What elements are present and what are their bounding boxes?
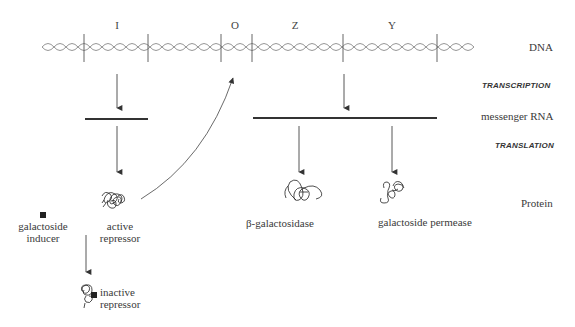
inactive-repressor-label: inactive repressor xyxy=(100,286,140,310)
protein-label: Protein xyxy=(521,197,553,209)
gene-label-o: O xyxy=(231,19,239,31)
beta-galactosidase-label: β-galactosidase xyxy=(246,217,314,229)
galactoside-permease-label: galactoside permease xyxy=(378,216,472,228)
repressor-binding-arrow xyxy=(141,78,233,199)
translation-label: TRANSLATION xyxy=(495,141,554,150)
active-repressor-label: active repressor xyxy=(100,220,140,244)
beta-galactosidase-icon xyxy=(285,180,322,200)
transcription-label: TRANSCRIPTION xyxy=(482,81,550,90)
bound-inducer-square-icon xyxy=(91,292,97,298)
dna-label: DNA xyxy=(529,41,553,53)
gene-label-y: Y xyxy=(388,19,396,31)
inactive-repressor-icon xyxy=(82,285,93,308)
galactoside-permease-icon xyxy=(380,182,404,204)
inducer-square-icon xyxy=(40,212,46,218)
lac-operon-diagram xyxy=(0,0,575,327)
inducer-label: galactoside inducer xyxy=(18,220,67,244)
mrna-label: messenger RNA xyxy=(481,110,553,122)
dna-helix xyxy=(42,44,474,51)
gene-label-z: Z xyxy=(292,19,299,31)
active-repressor-icon xyxy=(102,192,125,208)
gene-label-i: I xyxy=(115,19,119,31)
